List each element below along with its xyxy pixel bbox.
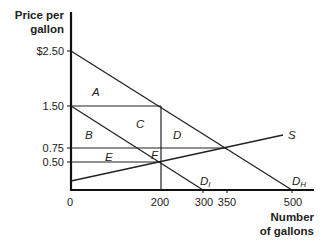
- region-label-b: B: [85, 129, 93, 141]
- region-label-d: D: [173, 129, 181, 141]
- region-label-f: F: [151, 149, 159, 161]
- xtick-label: 350: [218, 196, 236, 208]
- x-axis-title-line2: of gallons: [260, 225, 314, 237]
- chart: $2.50 1.50 0.75 0.50 0 200 300 350 500 P…: [0, 0, 329, 251]
- x-axis-title-line1: Number: [271, 211, 315, 223]
- xtick-label: 500: [284, 196, 302, 208]
- demand-di-label: DI: [200, 175, 211, 189]
- ytick-label: $2.50: [36, 45, 64, 57]
- xtick-label: 200: [151, 196, 169, 208]
- y-axis-title-line2: gallon: [30, 23, 64, 35]
- y-axis-title-line1: Price per: [15, 9, 65, 21]
- demand-dh-label: DH: [292, 175, 306, 189]
- xtick-label: 300: [195, 196, 213, 208]
- ytick-label: 1.50: [43, 100, 64, 112]
- region-label-e: E: [105, 151, 113, 163]
- ytick-label: 0.75: [43, 142, 64, 154]
- ytick-label: 0.50: [43, 156, 64, 168]
- region-label-a: A: [91, 86, 100, 98]
- demand-dh-line: [71, 51, 292, 190]
- region-label-c: C: [136, 118, 145, 130]
- xtick-label: 0: [67, 196, 73, 208]
- supply-label: S: [288, 129, 296, 141]
